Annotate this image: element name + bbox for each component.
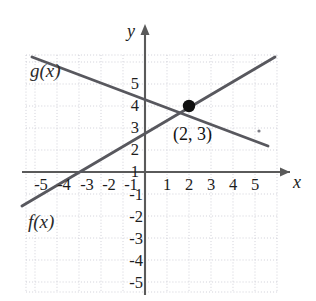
y-tick-label: -2 <box>129 207 143 226</box>
y-tick-label: 3 <box>131 118 139 137</box>
axes-group <box>22 24 290 295</box>
y-tick-label: -3 <box>129 229 143 248</box>
x-tick-labels-positive: 1 2 3 4 5 <box>163 175 259 194</box>
x-tick-label: -2 <box>102 175 116 194</box>
x-axis-arrow-icon <box>280 168 290 177</box>
y-tick-label: -4 <box>129 251 143 270</box>
x-tick-label: 3 <box>207 175 215 194</box>
x-tick-label: -5 <box>34 175 48 194</box>
intersection-point-label: (2, 3) <box>173 124 212 145</box>
y-tick-label: 1 <box>131 162 139 181</box>
y-tick-label: -1 <box>129 185 143 204</box>
x-tick-label: -3 <box>80 175 94 194</box>
curve-label-g: g(x) <box>30 60 61 82</box>
y-tick-label: -5 <box>129 273 143 292</box>
x-axis-label: x <box>292 172 301 192</box>
y-axis-label: y <box>125 21 135 41</box>
graph-figure: 1 2 3 4 5 -5 -4 -3 -2 -1 5 4 3 2 1 -1 -2… <box>0 0 316 301</box>
y-tick-label: 5 <box>131 74 139 93</box>
y-tick-labels-negative: -1 -2 -3 -4 -5 <box>129 185 143 292</box>
x-tick-label: 5 <box>251 175 259 194</box>
y-axis-arrow-icon <box>141 24 150 35</box>
x-tick-label: -4 <box>57 175 71 194</box>
stray-speck <box>257 129 260 132</box>
y-tick-label: 2 <box>131 140 139 159</box>
x-tick-label: 4 <box>229 175 237 194</box>
x-tick-label: 1 <box>163 175 171 194</box>
y-tick-labels-positive: 5 4 3 2 1 <box>131 74 139 181</box>
x-tick-label: 2 <box>185 175 193 194</box>
grid-group <box>26 55 278 292</box>
y-tick-label: 4 <box>131 96 139 115</box>
coordinate-plane-svg: 1 2 3 4 5 -5 -4 -3 -2 -1 5 4 3 2 1 -1 -2… <box>0 0 316 301</box>
intersection-point-dot <box>183 100 195 112</box>
curve-label-f: f(x) <box>28 211 54 233</box>
